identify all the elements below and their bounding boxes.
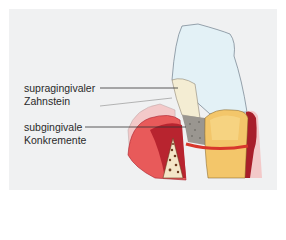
label-subgingival-line2: Konkremente xyxy=(24,134,86,147)
label-supragingival-line1: supragingivaler xyxy=(24,82,95,95)
label-supragingival: supragingivaler Zahnstein xyxy=(24,82,95,108)
label-supragingival-line2: Zahnstein xyxy=(24,95,95,108)
label-subgingival-line1: subgingivale xyxy=(24,121,86,134)
label-subgingival: subgingivale Konkremente xyxy=(24,121,86,147)
